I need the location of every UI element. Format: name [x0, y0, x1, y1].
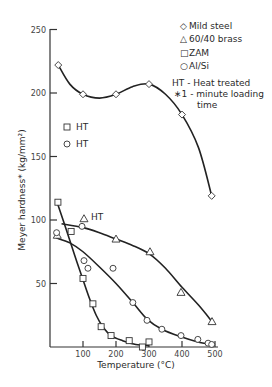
circle-icon	[144, 317, 150, 323]
square-icon	[80, 275, 86, 281]
circle-icon	[54, 230, 60, 236]
hardness-chart: 50100150200250 100200300400500 Temperatu…	[0, 0, 272, 387]
circle-icon	[110, 265, 116, 271]
square-icon	[90, 301, 96, 307]
inline-key-zam-ht: HT	[76, 122, 89, 132]
square-icon	[68, 228, 74, 234]
diamond-icon	[55, 62, 62, 69]
triangle-icon	[80, 215, 88, 222]
legend-symbol-zam: □	[180, 48, 189, 58]
square-icon	[126, 338, 132, 344]
diamond-icon	[80, 91, 87, 98]
legend-symbol-mild-steel: ◇	[180, 21, 187, 31]
x-tick-label: 500	[207, 350, 222, 359]
legend-symbol-brass: △	[180, 34, 187, 44]
triangle-icon	[146, 248, 154, 255]
circle-icon	[209, 341, 215, 347]
legend-note-ht: HT - Heat treated	[172, 78, 250, 88]
ht-brass-label: HT	[91, 212, 104, 222]
square-icon	[55, 199, 61, 205]
square-icon	[139, 344, 145, 350]
y-tick-label: 100	[31, 216, 46, 225]
x-axis-title: Temperature (°C)	[96, 360, 175, 370]
legend: ◇ Mild steel △ 60/40 brass □ ZAM ○ Al/Si…	[172, 21, 264, 110]
legend-label-zam: ZAM	[189, 48, 209, 58]
legend-label-alsi: Al/Si	[189, 61, 209, 71]
x-tick-label: 400	[174, 350, 189, 359]
x-tick-label: 300	[141, 350, 156, 359]
curve-al-si	[56, 238, 212, 345]
square-icon	[108, 333, 114, 339]
y-tick-label: 200	[31, 89, 46, 98]
circle-icon	[178, 333, 184, 339]
legend-label-mild-steel: Mild steel	[189, 21, 232, 31]
y-ticks: 50100150200250	[31, 26, 57, 289]
y-tick-label: 50	[36, 280, 46, 289]
circle-icon	[159, 326, 165, 332]
inline-ht-keys: HT HT	[64, 122, 89, 149]
data-markers	[53, 62, 216, 350]
square-icon	[98, 324, 104, 330]
circle-icon	[64, 141, 70, 147]
y-tick-label: 150	[31, 153, 46, 162]
circle-icon	[195, 336, 201, 342]
y-tick-label: 250	[31, 26, 46, 35]
diamond-icon	[146, 81, 153, 88]
x-tick-label: 100	[75, 350, 90, 359]
diamond-icon	[208, 192, 215, 199]
circle-icon	[130, 300, 136, 306]
x-tick-label: 200	[108, 350, 123, 359]
legend-label-brass: 60/40 brass	[189, 34, 242, 44]
inline-key-alsi-ht: HT	[76, 139, 89, 149]
annotations: HT	[91, 212, 104, 222]
square-icon	[64, 124, 70, 130]
y-axis-title: Meyer hardness* (kg/mm²)	[17, 129, 27, 250]
circle-icon	[79, 223, 85, 229]
diamond-icon	[113, 91, 120, 98]
circle-icon	[81, 258, 87, 264]
legend-note-time: time	[197, 100, 218, 110]
square-icon	[146, 339, 152, 345]
legend-note-loading: ∗1 - minute loading	[174, 89, 264, 99]
legend-symbol-alsi: ○	[180, 61, 188, 71]
circle-icon	[85, 265, 91, 271]
